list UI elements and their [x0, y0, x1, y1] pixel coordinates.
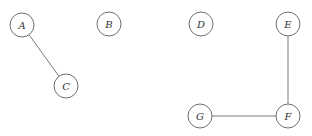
node-f: F — [276, 104, 300, 128]
node-a: A — [10, 13, 34, 37]
node-label: B — [104, 19, 112, 30]
node-label: F — [284, 111, 293, 122]
node-label: C — [62, 81, 70, 92]
node-label: A — [17, 20, 25, 31]
edge-a-c — [29, 35, 59, 77]
node-label: D — [196, 19, 205, 30]
node-d: D — [189, 12, 213, 36]
node-c: C — [54, 74, 78, 98]
node-label: G — [196, 111, 204, 122]
node-b: B — [97, 12, 121, 36]
graph-canvas: ABCDEFG — [0, 0, 312, 136]
node-e: E — [276, 12, 300, 36]
node-label: E — [283, 19, 292, 30]
graph-diagram: ABCDEFG — [0, 0, 312, 136]
nodes-layer: ABCDEFG — [10, 12, 300, 128]
node-g: G — [188, 104, 212, 128]
